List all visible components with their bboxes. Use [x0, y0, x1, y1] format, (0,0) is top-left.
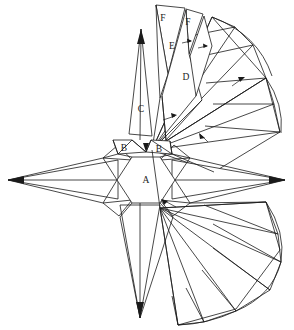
spike-top-arrowhead [137, 29, 145, 44]
fan-spoke-l5 [160, 208, 236, 311]
label-b-left: B [121, 143, 127, 153]
label-c: C [138, 104, 144, 114]
lower-right-fan [160, 202, 282, 325]
spike-right [172, 160, 285, 199]
fan-chord-l1 [266, 202, 278, 234]
fan-zig-l6 [172, 296, 178, 325]
fan-zig-l4 [202, 270, 236, 311]
fan-zig-l5 [186, 288, 204, 322]
fan-zig-l1 [204, 205, 278, 234]
crease-pattern-diagram: A B B C D E F F [0, 0, 294, 330]
label-e: E [169, 41, 175, 51]
fan-chord-l4 [236, 290, 270, 311]
crease-bl-hex [118, 154, 132, 157]
fan-spoke-l7 [160, 208, 178, 325]
fan-chord-u2 [235, 27, 253, 45]
label-d: D [183, 72, 190, 82]
figure-container: A B B C D E F F [0, 0, 294, 330]
fold-arrow-5 [161, 199, 176, 207]
fan-zig-l2 [213, 224, 281, 262]
fan-chord-l2 [278, 234, 281, 262]
label-f-left: F [160, 13, 165, 23]
label-f-right: F [185, 17, 190, 27]
label-a: A [143, 175, 150, 185]
fan-zig-l3 [213, 248, 270, 290]
fan-outer-boundary-lower [160, 202, 280, 325]
fan-chord-l6 [178, 322, 204, 325]
label-b-right: B [156, 144, 162, 154]
fan-chord-l3 [270, 262, 281, 290]
